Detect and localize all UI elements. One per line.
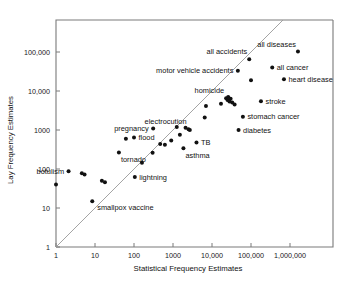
data-point-stroke <box>259 99 263 103</box>
label-electrocution: electrocution <box>145 117 187 126</box>
y-tick-label: 10 <box>42 204 50 213</box>
x-tick-label: 1,000,000 <box>274 251 306 260</box>
y-axis-title: Lay Frequency Estimates <box>6 96 15 184</box>
data-point-stomach-cancer <box>241 115 245 119</box>
x-tick-label: 100,000 <box>238 251 264 260</box>
label-tornado: tornado <box>121 155 146 164</box>
data-point-all-cancer <box>270 66 274 70</box>
data-point-smallpox-vaccine <box>54 183 58 187</box>
label-asthma: asthma <box>185 151 210 160</box>
data-point-flood <box>132 136 136 140</box>
label-smallpox-vaccine: smallpox vaccine <box>97 203 153 212</box>
data-point-tb <box>194 140 198 144</box>
data-point <box>204 104 208 108</box>
data-point <box>90 199 94 203</box>
label-diabetes: diabetes <box>243 126 271 135</box>
label-homicide: homicide <box>195 86 225 95</box>
y-axis-ticks <box>56 52 60 247</box>
scatter-chart-figure: 110100100010,000100,0001,000,000 1101001… <box>0 0 344 286</box>
data-point-tornado <box>117 150 121 154</box>
label-all-diseases: all diseases <box>257 40 296 49</box>
data-point <box>178 133 182 137</box>
x-tick-label: 100 <box>128 251 140 260</box>
label-lightning: lightning <box>139 173 167 182</box>
data-point <box>83 173 87 177</box>
data-point <box>151 151 155 155</box>
x-axis-title: Statistical Frequency Estimates <box>134 264 243 273</box>
top-left-spine <box>56 20 333 247</box>
data-point-heart-disease <box>282 77 286 81</box>
x-tick-label: 1000 <box>165 251 181 260</box>
label-botulism: botulism <box>37 167 65 176</box>
data-point <box>249 78 253 82</box>
y-tick-label: 10,000 <box>28 87 50 96</box>
data-point <box>203 115 207 119</box>
chart-canvas: 110100100010,000100,0001,000,000 1101001… <box>0 0 344 286</box>
data-point-diabetes <box>237 128 241 132</box>
data-point-botulism <box>67 169 71 173</box>
point-labels: botulismtornadofloodlightningpregnancyas… <box>37 40 333 213</box>
data-point <box>124 137 128 141</box>
label-stroke: stroke <box>265 97 285 106</box>
axes-group: 110100100010,000100,0001,000,000 1101001… <box>24 20 333 260</box>
x-tick-label: 1 <box>54 251 58 260</box>
data-point <box>158 142 162 146</box>
data-point-pregnancy <box>151 126 155 130</box>
x-tick-label: 10 <box>91 251 99 260</box>
plot-frame <box>56 20 333 247</box>
data-point-all-diseases <box>296 50 300 54</box>
y-tick-label: 100,000 <box>24 48 50 57</box>
data-point-motor-vehicle-accidents <box>236 69 240 73</box>
label-flood: flood <box>139 133 155 142</box>
x-tick-label: 10,000 <box>201 251 223 260</box>
label-stomach-cancer: stomach cancer <box>247 112 300 121</box>
data-point <box>233 103 237 107</box>
y-tick-label: 1000 <box>34 126 50 135</box>
label-all-cancer: all cancer <box>277 63 309 72</box>
data-point <box>169 138 173 142</box>
label-all-accidents: all accidents <box>207 47 248 56</box>
label-heart-disease: heart disease <box>288 75 332 84</box>
bottom-right-spine <box>56 20 333 247</box>
data-point <box>188 128 192 132</box>
y-tick-label: 1 <box>46 243 50 252</box>
data-point <box>103 180 107 184</box>
x-axis-tick-labels: 110100100010,000100,0001,000,000 <box>54 251 306 260</box>
label-motor-vehicle-accidents: motor vehicle accidents <box>156 66 234 75</box>
label-tb: TB <box>201 138 211 147</box>
x-axis-ticks <box>56 243 290 247</box>
data-point <box>163 143 167 147</box>
data-point <box>219 102 223 106</box>
data-point-all-accidents <box>247 57 251 61</box>
data-point <box>229 97 233 101</box>
data-point-lightning <box>133 175 137 179</box>
y-axis-tick-labels: 110100100010,000100,000 <box>24 48 50 252</box>
data-point-asthma <box>181 146 185 150</box>
